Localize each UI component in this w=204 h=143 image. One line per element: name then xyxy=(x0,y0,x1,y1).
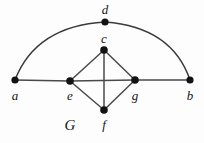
graph-figure: abcdefg G xyxy=(0,0,204,143)
graph-vertex-a xyxy=(11,76,18,83)
graph-vertex-g xyxy=(131,76,139,84)
graph-edge-a-d xyxy=(15,22,105,80)
graph-vertex-d xyxy=(101,18,108,25)
graph-edge-f-g xyxy=(104,80,135,110)
graph-vertex-b xyxy=(186,76,193,83)
vertex-label-d: d xyxy=(102,3,109,16)
graph-name-label: G xyxy=(65,118,76,133)
graph-edge-e-f xyxy=(70,81,104,110)
straight-edge-group xyxy=(15,50,190,110)
graph-vertex-e xyxy=(66,77,74,85)
vertex-label-f: f xyxy=(102,118,106,131)
graph-edge-c-e xyxy=(70,50,104,81)
graph-edge-d-b xyxy=(105,22,190,80)
graph-edge-e-g xyxy=(70,80,135,81)
vertex-label-e: e xyxy=(67,89,73,102)
vertex-label-g: g xyxy=(132,89,139,102)
vertex-label-a: a xyxy=(12,89,19,102)
vertex-label-b: b xyxy=(187,89,194,102)
graph-edge-c-g xyxy=(104,50,135,80)
graph-edge-a-e xyxy=(15,80,70,81)
graph-vertex-c xyxy=(100,46,108,54)
graph-vertex-f xyxy=(100,106,108,114)
vertex-label-c: c xyxy=(101,32,107,45)
